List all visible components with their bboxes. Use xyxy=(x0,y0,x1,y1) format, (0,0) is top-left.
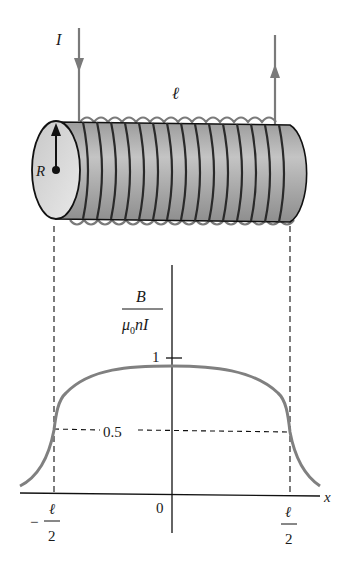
y-label-denominator: μ0nI xyxy=(121,316,149,336)
half-label: 0.5 xyxy=(103,424,122,440)
solenoid-diagram: R I ℓ x B μ0nI 1 xyxy=(0,0,350,574)
radius-label: R xyxy=(35,163,45,179)
x-axis-label: x xyxy=(323,489,331,505)
half-line-right xyxy=(138,430,290,432)
field-plot: x B μ0nI 1 0.5 0 − ℓ 2 ℓ 2 xyxy=(20,265,331,547)
arrow-up-icon xyxy=(270,64,280,78)
x-tick-pos-half-l: ℓ 2 xyxy=(281,504,297,547)
solenoid: R I ℓ xyxy=(32,28,307,225)
half-line-left xyxy=(54,429,100,430)
current-label: I xyxy=(55,31,62,48)
x-tick-neg-half-l: − ℓ 2 xyxy=(30,501,60,544)
field-curve xyxy=(20,366,320,486)
axis-center-dot xyxy=(52,166,60,174)
origin-label: 0 xyxy=(156,500,164,516)
current-in-wire xyxy=(74,28,84,122)
tick-one-label: 1 xyxy=(152,349,160,365)
svg-text:−: − xyxy=(30,514,38,530)
arrow-down-icon xyxy=(74,58,84,72)
svg-text:ℓ: ℓ xyxy=(285,504,291,520)
svg-text:ℓ: ℓ xyxy=(49,501,55,517)
x-axis xyxy=(20,493,320,496)
length-label: ℓ xyxy=(172,84,179,103)
svg-text:2: 2 xyxy=(48,528,56,544)
y-label-numerator: B xyxy=(136,288,146,305)
current-out-wire xyxy=(270,35,280,124)
svg-text:2: 2 xyxy=(285,531,293,547)
coil-back-loops-top xyxy=(80,118,276,123)
